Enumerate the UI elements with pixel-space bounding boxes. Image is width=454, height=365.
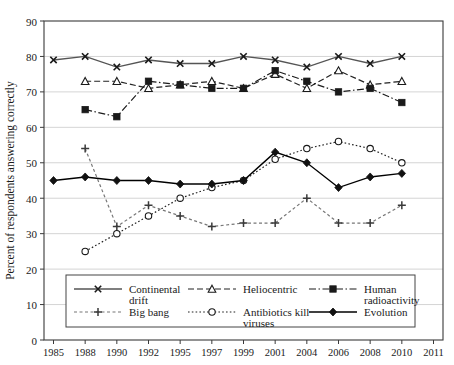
marker-square [240, 85, 246, 91]
series-line [85, 142, 402, 252]
x-tick-label: 1995 [170, 347, 191, 358]
x-tick-label: 2001 [265, 347, 286, 358]
x-tick-label: 2004 [296, 347, 318, 358]
marker-triangle [335, 67, 343, 74]
y-tick-label: 70 [26, 86, 38, 98]
marker-square [272, 67, 278, 73]
legend-label-line2: radioactivity [364, 294, 420, 306]
y-tick-label: 20 [26, 264, 38, 276]
marker-circle [272, 156, 278, 162]
x-tick-label: 2006 [328, 347, 349, 358]
marker-diamond [113, 177, 120, 185]
x-tick-label: 1999 [233, 347, 254, 358]
marker-plus [366, 219, 374, 227]
series-line [54, 56, 402, 67]
x-tick-label: 2010 [391, 347, 412, 358]
x-tick-label: 1988 [75, 347, 96, 358]
marker-diamond [366, 173, 373, 181]
series-human-radioactivity [82, 67, 405, 119]
legend-label-line2: drift [129, 294, 148, 306]
marker-circle [145, 213, 151, 219]
legend-label: Heliocentric [243, 283, 297, 295]
marker-diamond [81, 173, 88, 181]
x-tick-label: 1992 [138, 347, 159, 358]
series-antibiotics-kill-viruses [82, 138, 405, 254]
y-axis: 0102030405060708090 [26, 16, 44, 347]
y-tick-label: 30 [26, 228, 38, 240]
legend-label-line2: viruses [243, 317, 274, 329]
marker-plus [176, 212, 184, 220]
marker-plus [398, 201, 406, 209]
marker-square [330, 286, 336, 292]
marker-diamond [145, 177, 152, 185]
x-tick-label: 2008 [360, 347, 381, 358]
marker-square [209, 85, 215, 91]
y-tick-label: 40 [26, 193, 38, 205]
y-tick-label: 90 [26, 16, 38, 28]
marker-circle [82, 248, 88, 254]
marker-circle [399, 160, 405, 166]
series-big-bang [81, 145, 406, 231]
y-tick-label: 10 [26, 299, 38, 311]
chart-container: 0102030405060708090Percent of respondent… [0, 0, 454, 365]
x-axis: 1985198819901992199519971999200120042006… [43, 340, 444, 358]
marker-triangle [303, 85, 311, 92]
series-continental-drift [50, 53, 405, 70]
y-tick-label: 0 [32, 335, 38, 347]
marker-square [304, 78, 310, 84]
series-line [54, 152, 402, 187]
marker-circle [367, 145, 373, 151]
series-evolution [50, 148, 406, 191]
marker-plus [113, 223, 121, 231]
marker-circle [114, 230, 120, 236]
marker-diamond [398, 169, 405, 177]
legend-label: Big bang [129, 306, 170, 318]
marker-circle [335, 138, 341, 144]
marker-square [335, 89, 341, 95]
marker-square [399, 99, 405, 105]
y-axis-title: Percent of respondents answering correct… [4, 81, 17, 280]
marker-circle [304, 145, 310, 151]
y-tick-label: 60 [26, 122, 38, 134]
marker-square [114, 114, 120, 120]
legend-box [66, 275, 415, 327]
marker-plus [240, 219, 248, 227]
marker-triangle [208, 77, 216, 84]
marker-square [82, 106, 88, 112]
x-tick-label: 2011 [423, 347, 444, 358]
marker-plus [208, 223, 216, 231]
x-tick-label: 1997 [201, 347, 222, 358]
y-tick-label: 50 [26, 157, 38, 169]
legend-label: Evolution [364, 306, 408, 318]
marker-square [177, 82, 183, 88]
legend: ContinentaldriftHeliocentricHumanradioac… [66, 275, 420, 329]
marker-square [145, 78, 151, 84]
x-tick-label: 1985 [43, 347, 64, 358]
y-tick-label: 80 [26, 51, 38, 63]
series-line [85, 149, 402, 227]
line-chart: 0102030405060708090Percent of respondent… [0, 0, 454, 365]
marker-diamond [50, 177, 57, 185]
marker-plus [145, 201, 153, 209]
marker-diamond [176, 180, 183, 188]
marker-plus [271, 219, 279, 227]
marker-plus [81, 145, 89, 153]
marker-square [367, 85, 373, 91]
marker-circle [177, 195, 183, 201]
x-tick-label: 1990 [106, 347, 127, 358]
marker-circle [209, 309, 215, 315]
marker-plus [335, 219, 343, 227]
